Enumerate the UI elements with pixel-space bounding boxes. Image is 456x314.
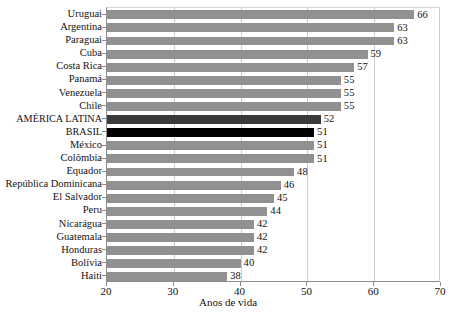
- bar-row: 51: [107, 139, 439, 153]
- bar-value-label: 46: [284, 178, 295, 192]
- bar-chile: [107, 102, 341, 111]
- bar-row: 42: [107, 244, 439, 258]
- category-label-equador: Equador: [0, 164, 102, 178]
- bar-rows: 6663635957555555525151514846454442424240…: [107, 8, 439, 281]
- bar-value-label: 48: [297, 165, 308, 179]
- bar-value-label: 59: [371, 47, 382, 61]
- bar-row: 55: [107, 100, 439, 114]
- bar-bolívia: [107, 259, 241, 268]
- bar-value-label: 40: [244, 256, 255, 270]
- bar-row: 52: [107, 113, 439, 127]
- bar-value-label: 63: [397, 21, 408, 35]
- bar-américa-latina: [107, 115, 321, 124]
- bar-equador: [107, 168, 294, 177]
- bar-value-label: 51: [317, 138, 328, 152]
- bar-value-label: 42: [257, 230, 268, 244]
- bar-row: 63: [107, 34, 439, 48]
- bar-value-label: 51: [317, 152, 328, 166]
- x-axis-title: Anos de vida: [0, 296, 456, 308]
- bar-row: 44: [107, 204, 439, 218]
- bar-row: 55: [107, 87, 439, 101]
- bar-value-label: 45: [277, 191, 288, 205]
- bar-value-label: 52: [324, 112, 335, 126]
- category-label-el-salvador: El Salvador: [0, 190, 102, 204]
- category-label-venezuela: Venezuela: [0, 86, 102, 100]
- bar-value-label: 55: [344, 99, 355, 113]
- category-label-brasil: BRASIL: [0, 125, 102, 139]
- bar-argentina: [107, 23, 394, 32]
- bar-cuba: [107, 50, 368, 59]
- bar-value-label: 42: [257, 217, 268, 231]
- bar-brasil: [107, 128, 314, 137]
- bar-value-label: 44: [270, 204, 281, 218]
- bar-value-label: 42: [257, 243, 268, 257]
- category-label-paraguai: Paraguai: [0, 33, 102, 47]
- category-axis-labels: UruguaiArgentinaParaguaiCubaCosta RicaPa…: [0, 7, 102, 282]
- bar-méxico: [107, 141, 314, 150]
- bar-value-label: 57: [357, 60, 368, 74]
- category-label-nicarágua: Nicarágua: [0, 217, 102, 231]
- plot-area: 6663635957555555525151514846454442424240…: [106, 7, 440, 282]
- category-label-república-dominicana: República Dominicana: [0, 177, 102, 191]
- bar-row: 42: [107, 231, 439, 245]
- category-label-haiti: Haiti: [0, 269, 102, 283]
- bar-haiti: [107, 272, 227, 281]
- bar-value-label: 63: [397, 34, 408, 48]
- bar-value-label: 55: [344, 86, 355, 100]
- bar-row: 51: [107, 152, 439, 166]
- bar-row: 55: [107, 73, 439, 87]
- bar-value-label: 55: [344, 73, 355, 87]
- bar-el-salvador: [107, 194, 274, 203]
- bar-value-label: 66: [417, 8, 428, 22]
- bar-uruguai: [107, 10, 414, 19]
- life-expectancy-bar-chart: UruguaiArgentinaParaguaiCubaCosta RicaPa…: [0, 0, 456, 314]
- category-label-peru: Peru: [0, 203, 102, 217]
- bar-peru: [107, 207, 267, 216]
- category-label-honduras: Honduras: [0, 243, 102, 257]
- category-label-cuba: Cuba: [0, 46, 102, 60]
- bar-row: 51: [107, 126, 439, 140]
- bar-row: 63: [107, 21, 439, 35]
- bar-row: 42: [107, 218, 439, 232]
- bar-row: 40: [107, 257, 439, 271]
- category-label-américa-latina: AMÉRICA LATINA: [0, 112, 102, 126]
- category-label-méxico: México: [0, 138, 102, 152]
- bar-colômbia: [107, 154, 314, 163]
- bar-row: 48: [107, 165, 439, 179]
- category-label-panamá: Panamá: [0, 72, 102, 86]
- bar-row: 46: [107, 178, 439, 192]
- bar-venezuela: [107, 89, 341, 98]
- category-label-uruguai: Uruguai: [0, 7, 102, 21]
- bar-row: 66: [107, 8, 439, 22]
- category-label-argentina: Argentina: [0, 20, 102, 34]
- chart-top-edge: [106, 0, 440, 6]
- category-label-guatemala: Guatemala: [0, 230, 102, 244]
- bar-costa-rica: [107, 63, 354, 72]
- bar-república-dominicana: [107, 181, 281, 190]
- bar-row: 57: [107, 60, 439, 74]
- bar-honduras: [107, 246, 254, 255]
- category-label-colômbia: Colômbia: [0, 151, 102, 165]
- category-label-chile: Chile: [0, 99, 102, 113]
- bar-nicarágua: [107, 220, 254, 229]
- bar-paraguai: [107, 37, 394, 46]
- category-label-bolívia: Bolívia: [0, 256, 102, 270]
- bar-panamá: [107, 76, 341, 85]
- bar-value-label: 51: [317, 125, 328, 139]
- category-label-costa-rica: Costa Rica: [0, 59, 102, 73]
- bar-row: 59: [107, 47, 439, 61]
- bar-guatemala: [107, 233, 254, 242]
